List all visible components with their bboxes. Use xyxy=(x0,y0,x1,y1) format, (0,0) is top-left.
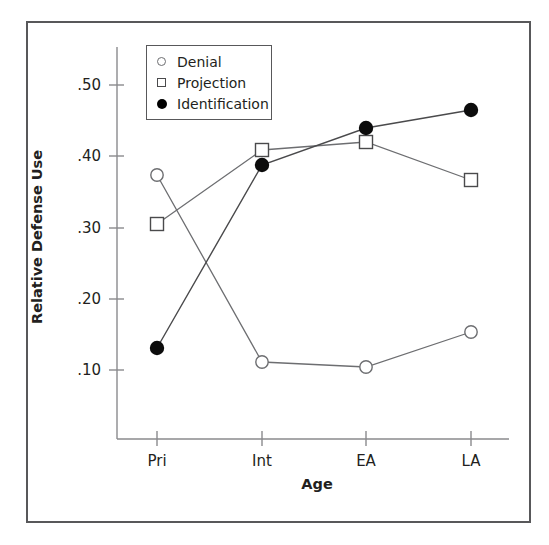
x-tick-label-pri: Pri xyxy=(127,452,187,470)
open-circle-icon xyxy=(157,57,175,66)
legend-label-projection: Projection xyxy=(175,76,246,90)
legend-item-identification: Identification xyxy=(157,93,271,114)
y-tick-label-050: .50 xyxy=(55,76,101,94)
data-point-projection-la xyxy=(465,174,478,187)
x-tick-label-ea: EA xyxy=(336,452,396,470)
data-point-projection-int xyxy=(256,144,269,157)
x-axis-label: Age xyxy=(117,476,517,492)
chart-legend: Denial Projection Identification xyxy=(146,45,272,120)
open-square-icon xyxy=(157,78,175,87)
filled-circle-icon xyxy=(157,99,175,109)
series-line-denial xyxy=(157,175,471,367)
y-tick-label-020: .20 xyxy=(55,290,101,308)
x-tick-label-la: LA xyxy=(441,452,501,470)
series-line-projection xyxy=(157,142,471,224)
y-axis-label: Relative Defense Use xyxy=(29,164,45,324)
data-point-denial-ea xyxy=(360,361,372,373)
series-markers-projection xyxy=(151,136,478,231)
data-point-projection-ea xyxy=(360,136,373,149)
y-tick-label-010: .10 xyxy=(55,361,101,379)
legend-label-denial: Denial xyxy=(175,55,222,69)
figure-container: .50 .40 .30 .20 .10 Pri Int EA LA Relati… xyxy=(0,0,549,545)
data-point-identification-ea xyxy=(359,121,373,135)
data-point-identification-int xyxy=(255,158,269,172)
legend-item-denial: Denial xyxy=(157,51,271,72)
legend-item-projection: Projection xyxy=(157,72,271,93)
y-tick-label-040: .40 xyxy=(55,147,101,165)
y-tick-label-030: .30 xyxy=(55,219,101,237)
data-point-denial-la xyxy=(465,326,477,338)
data-point-projection-pri xyxy=(151,218,164,231)
data-point-identification-la xyxy=(464,103,478,117)
series-markers-denial xyxy=(151,169,477,373)
series-markers-identification xyxy=(150,103,478,355)
legend-label-identification: Identification xyxy=(175,97,269,111)
data-point-identification-pri xyxy=(150,341,164,355)
data-point-denial-int xyxy=(256,356,268,368)
x-tick-label-int: Int xyxy=(232,452,292,470)
data-point-denial-pri xyxy=(151,169,163,181)
